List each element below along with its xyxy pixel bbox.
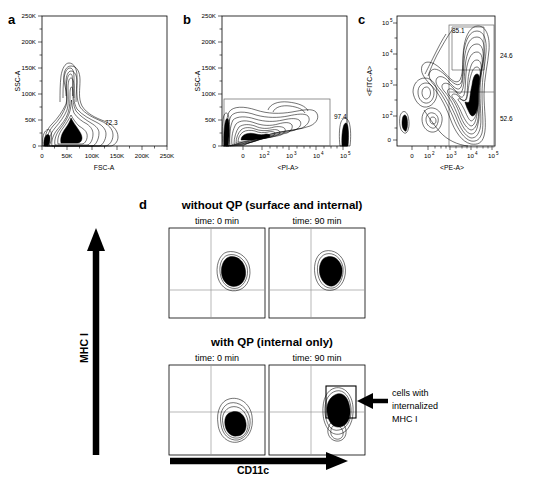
svg-text:4: 4 <box>390 49 393 54</box>
svg-text:4: 4 <box>475 151 478 156</box>
svg-text:5: 5 <box>390 18 393 23</box>
annotation-line-1: cells with <box>392 388 429 398</box>
panel-b-xtick-0: 0 <box>241 152 245 159</box>
panel-b-ytick-150k: 150K <box>202 64 217 71</box>
panel-a-xtick-200k: 200K <box>135 152 150 159</box>
svg-text:10: 10 <box>382 50 389 57</box>
panel-b-gate-percentage: 97.4 <box>334 113 347 120</box>
panel-c-ylabel: <FITC-A> <box>366 66 373 96</box>
panel-a-xtick-0: 0 <box>40 152 44 159</box>
panel-d-group-title-without-qp: without QP (surface and internal) <box>181 199 363 211</box>
panel-a-x-axis: 0 50K 100K 150K 200K 250K FSC-A <box>40 146 175 171</box>
panel-d-annotation: cells with internalized MHC I <box>357 388 438 424</box>
svg-text:3: 3 <box>454 151 457 156</box>
panel-c-y-axis: 105 104 103 102 0 <FITC-A> <box>366 18 397 143</box>
panel-c-letter: c <box>358 12 365 27</box>
panel-a-xlabel: FSC-A <box>94 164 115 171</box>
panel-b-contours <box>222 102 350 146</box>
panel-b-ytick-50k: 50K <box>205 116 217 123</box>
panel-b-xtick-1e4: 104 <box>313 151 324 159</box>
panel-d4-contours <box>323 388 353 441</box>
panel-b-xtick-1e2: 102 <box>259 151 270 159</box>
panel-c-xtick-1e4: 104 <box>467 151 478 159</box>
svg-text:3: 3 <box>294 151 297 156</box>
svg-text:3: 3 <box>390 80 393 85</box>
panel-c-ytick-1e4: 104 <box>382 49 393 57</box>
panel-d-x-axis-arrow: CD11c <box>170 452 348 476</box>
panel-a-xtick-50k: 50K <box>61 152 73 159</box>
svg-text:2: 2 <box>390 111 393 116</box>
panel-b-gate-rect <box>224 99 330 146</box>
annotation-line-3: MHC I <box>392 414 418 424</box>
panel-d1-contours <box>217 252 250 291</box>
panel-a-xtick-250k: 250K <box>160 152 175 159</box>
panel-b-y-axis: 250K 200K 150K 100K 50K 0 SSC-A <box>194 12 222 149</box>
panel-b-plot-frame <box>222 16 347 146</box>
panel-d-letter: d <box>139 197 147 212</box>
panel-c-xtick-1e5: 105 <box>488 151 499 159</box>
panel-d2-contours <box>314 251 345 291</box>
panel-b-xtick-1e3: 103 <box>286 151 297 159</box>
panel-b-ytick-100k: 100K <box>202 90 217 97</box>
svg-text:2: 2 <box>267 151 270 156</box>
svg-text:10: 10 <box>446 152 453 159</box>
panel-d-timepoint-r2c1: time: 0 min <box>195 353 239 363</box>
panel-a-ytick-100k: 100K <box>22 90 37 97</box>
panel-a-xtick-150k: 150K <box>110 152 125 159</box>
flow-cytometry-figure: a 250K 200K 150K 100K 50K 0 SSC-A <box>0 0 540 478</box>
panel-c-x-axis: 0 102 103 104 105 <PE-A> <box>410 146 499 171</box>
panel-d-timepoint-r2c2: time: 90 min <box>292 353 341 363</box>
panel-c: c 105 104 103 102 0 <FITC <box>358 12 513 171</box>
panel-a-letter: a <box>8 12 16 27</box>
panel-d-y-axis-arrow: MHC I <box>78 228 105 455</box>
svg-text:10: 10 <box>467 152 474 159</box>
panel-c-contours <box>400 26 490 146</box>
panel-c-xtick-1e3: 103 <box>446 151 457 159</box>
panel-c-gate-right <box>449 25 494 147</box>
panel-a-ytick-200k: 200K <box>22 38 37 45</box>
svg-text:2: 2 <box>432 151 435 156</box>
panel-d: d without QP (surface and internal) with… <box>78 197 438 476</box>
panel-c-gate-percentage-top: 85.1 <box>452 27 465 34</box>
panel-a-contours <box>43 63 118 146</box>
svg-text:5: 5 <box>348 151 351 156</box>
panel-b-ytick-200k: 200K <box>202 38 217 45</box>
panel-a-ylabel: SSC-A <box>14 70 21 91</box>
annotation-line-2: internalized <box>392 401 438 411</box>
panel-c-ytick-1e2: 102 <box>382 111 393 119</box>
panel-d-ylabel: MHC I <box>78 333 90 363</box>
panel-d3-contours <box>218 398 253 442</box>
panel-b-letter: b <box>183 12 191 27</box>
panel-c-xtick-0: 0 <box>410 152 414 159</box>
svg-text:10: 10 <box>382 19 389 26</box>
svg-text:10: 10 <box>259 152 266 159</box>
panel-c-xlabel: <PE-A> <box>440 164 464 171</box>
panel-b-xlabel: <PI-A> <box>277 164 298 171</box>
panel-d-subplot-1 <box>169 228 265 318</box>
panel-a: a 250K 200K 150K 100K 50K 0 SSC-A <box>8 12 175 171</box>
svg-text:4: 4 <box>321 151 324 156</box>
svg-text:10: 10 <box>488 152 495 159</box>
svg-text:10: 10 <box>424 152 431 159</box>
panel-c-ytick-1e3: 103 <box>382 80 393 88</box>
panel-d-subplot-4 <box>269 365 365 455</box>
panel-c-ytick-0: 0 <box>388 136 392 143</box>
panel-a-y-axis: 250K 200K 150K 100K 50K 0 SSC-A <box>14 12 42 149</box>
panel-d-subplot-2 <box>269 228 365 318</box>
panel-b-ytick-0: 0 <box>213 142 217 149</box>
panel-d-subplot-3 <box>169 365 265 455</box>
panel-c-xtick-1e2: 102 <box>424 151 435 159</box>
panel-c-gate-percentage-lower-right: 52.6 <box>500 115 513 122</box>
panel-b-xtick-1e5: 105 <box>340 151 351 159</box>
svg-text:10: 10 <box>313 152 320 159</box>
panel-d-group-title-with-qp: with QP (internal only) <box>210 336 333 348</box>
panel-d-timepoint-r1c2: time: 90 min <box>292 216 341 226</box>
panel-b-x-axis: 0 102 103 104 105 <PI-A> <box>241 146 351 171</box>
panel-b-ytick-250k: 250K <box>202 12 217 19</box>
panel-a-ytick-250k: 250K <box>22 12 37 19</box>
svg-text:10: 10 <box>286 152 293 159</box>
panel-b-ylabel: SSC-A <box>194 70 201 91</box>
panel-a-gate-percentage: 72.3 <box>105 119 118 126</box>
panel-c-ytick-1e5: 105 <box>382 18 393 26</box>
panel-d-timepoint-r1c1: time: 0 min <box>195 216 239 226</box>
